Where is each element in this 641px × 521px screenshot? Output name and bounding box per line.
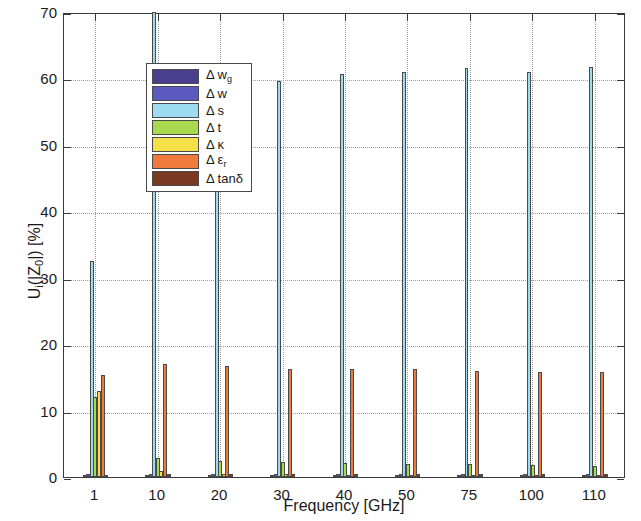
plot-area: Δ wgΔ wΔ sΔ tΔ κΔ εrΔ tanδ bbox=[63, 13, 625, 478]
y-axis-tick bbox=[617, 346, 624, 347]
y-axis-tick-label: 20 bbox=[0, 337, 57, 352]
y-axis-tick bbox=[64, 280, 71, 281]
bar bbox=[167, 474, 171, 477]
y-axis-tick-label: 50 bbox=[0, 138, 57, 153]
bar bbox=[589, 67, 593, 477]
bar bbox=[101, 375, 105, 477]
bar bbox=[479, 474, 483, 477]
bar bbox=[527, 72, 531, 477]
bar bbox=[291, 474, 295, 477]
y-axis-tick bbox=[617, 479, 624, 480]
legend-row: Δ s bbox=[152, 102, 247, 119]
bar bbox=[225, 366, 229, 477]
x-axis-title: Frequency [GHz] bbox=[63, 497, 625, 515]
legend-swatch bbox=[152, 86, 199, 101]
legend-swatch bbox=[152, 69, 199, 84]
legend-label: Δ s bbox=[206, 104, 224, 117]
y-axis-tick bbox=[64, 80, 71, 81]
legend-label: Δ wg bbox=[206, 68, 232, 86]
bar-group bbox=[83, 14, 108, 477]
chart-legend: Δ wgΔ wΔ sΔ tΔ κΔ εrΔ tanδ bbox=[146, 63, 252, 192]
bar bbox=[277, 81, 281, 477]
legend-row: Δ t bbox=[152, 119, 247, 136]
y-axis-tick bbox=[64, 479, 71, 480]
y-axis-tick-label: 40 bbox=[0, 204, 57, 219]
bar bbox=[416, 474, 420, 477]
legend-row: Δ w bbox=[152, 85, 247, 102]
bar-group bbox=[520, 14, 545, 477]
legend-label: Δ tanδ bbox=[206, 172, 243, 185]
legend-label: Δ εr bbox=[206, 153, 226, 171]
legend-label: Δ κ bbox=[206, 138, 224, 151]
bar bbox=[538, 372, 542, 477]
legend-swatch bbox=[152, 137, 199, 152]
legend-row: Δ εr bbox=[152, 153, 247, 170]
legend-swatch bbox=[152, 171, 199, 186]
bar bbox=[229, 474, 233, 477]
y-axis-tick bbox=[64, 413, 71, 414]
y-axis-tick-label: 70 bbox=[0, 5, 57, 20]
bar bbox=[340, 74, 344, 477]
legend-label: Δ t bbox=[206, 121, 221, 134]
y-axis-title: Ui(|Z0|) [%] bbox=[26, 222, 45, 298]
bar bbox=[475, 371, 479, 477]
y-axis-tick bbox=[617, 213, 624, 214]
bar bbox=[465, 68, 469, 477]
bar bbox=[104, 475, 108, 477]
bar-group bbox=[270, 14, 295, 477]
y-axis-tick-label: 10 bbox=[0, 404, 57, 419]
y-axis-tick bbox=[617, 413, 624, 414]
y-axis-title-text: Ui(|Z0|) [%] bbox=[26, 222, 43, 298]
y-axis-tick-label: 0 bbox=[0, 470, 57, 485]
y-axis-tick-label: 30 bbox=[0, 271, 57, 286]
y-axis-tick bbox=[617, 147, 624, 148]
y-axis-tick bbox=[617, 14, 624, 15]
bar bbox=[354, 474, 358, 477]
y-axis-tick bbox=[64, 14, 71, 15]
bar-group bbox=[582, 14, 607, 477]
chart-figure: Ui(|Z0|) [%] 010203040506070 Δ wgΔ wΔ sΔ… bbox=[0, 0, 641, 521]
y-axis-tick bbox=[617, 280, 624, 281]
bar bbox=[163, 364, 167, 477]
y-axis-tick bbox=[64, 346, 71, 347]
bar bbox=[541, 474, 545, 477]
legend-label: Δ w bbox=[206, 87, 227, 100]
bar bbox=[288, 369, 292, 477]
legend-row: Δ tanδ bbox=[152, 170, 247, 187]
legend-swatch bbox=[152, 154, 199, 169]
y-axis-tick-label: 60 bbox=[0, 71, 57, 86]
bar bbox=[600, 372, 604, 477]
bar-group bbox=[457, 14, 482, 477]
y-axis-tick bbox=[617, 80, 624, 81]
y-axis-tick bbox=[64, 213, 71, 214]
bar bbox=[413, 369, 417, 477]
bar-group bbox=[395, 14, 420, 477]
bar bbox=[402, 72, 406, 477]
bar-group bbox=[333, 14, 358, 477]
legend-swatch bbox=[152, 120, 199, 135]
legend-row: Δ κ bbox=[152, 136, 247, 153]
bar bbox=[350, 369, 354, 477]
legend-swatch bbox=[152, 103, 199, 118]
y-axis-tick bbox=[64, 147, 71, 148]
bar bbox=[604, 474, 608, 477]
legend-row: Δ wg bbox=[152, 68, 247, 85]
